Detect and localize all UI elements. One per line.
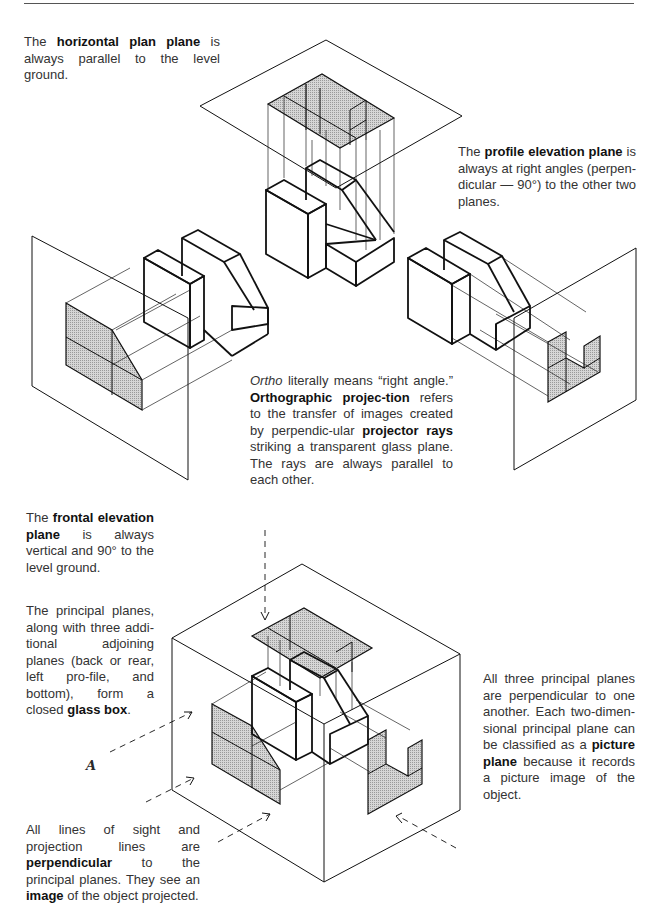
- lines-of-sight: [110, 530, 456, 848]
- profile-elevation-plane-figure: [408, 232, 636, 470]
- side-view-image: [548, 332, 600, 402]
- front-view-image: [66, 303, 142, 410]
- arrow-left-icon: [396, 813, 402, 823]
- side-view-shaded: [548, 332, 600, 402]
- front-view-shaded: [66, 303, 142, 410]
- object-top-figure: [266, 160, 394, 286]
- arrow-down-icon: [261, 612, 269, 620]
- arrow-right-icon: [262, 813, 270, 821]
- projection-diagrams: [0, 0, 658, 908]
- glass-box-front-view: [212, 704, 280, 804]
- sight-line-front: [110, 712, 192, 752]
- top-view-shaded: [268, 74, 394, 148]
- frontal-elevation-plane-figure: [32, 230, 268, 480]
- glass-box-side-view: [368, 730, 422, 814]
- glass-box-object: [252, 660, 368, 764]
- glass-box-top-view: [252, 608, 372, 678]
- top-view-image: [268, 74, 394, 148]
- glass-box-figure: [110, 530, 460, 882]
- sight-line-side: [398, 816, 456, 848]
- object-side-figure: [408, 232, 530, 350]
- sight-line-front-3: [218, 814, 270, 842]
